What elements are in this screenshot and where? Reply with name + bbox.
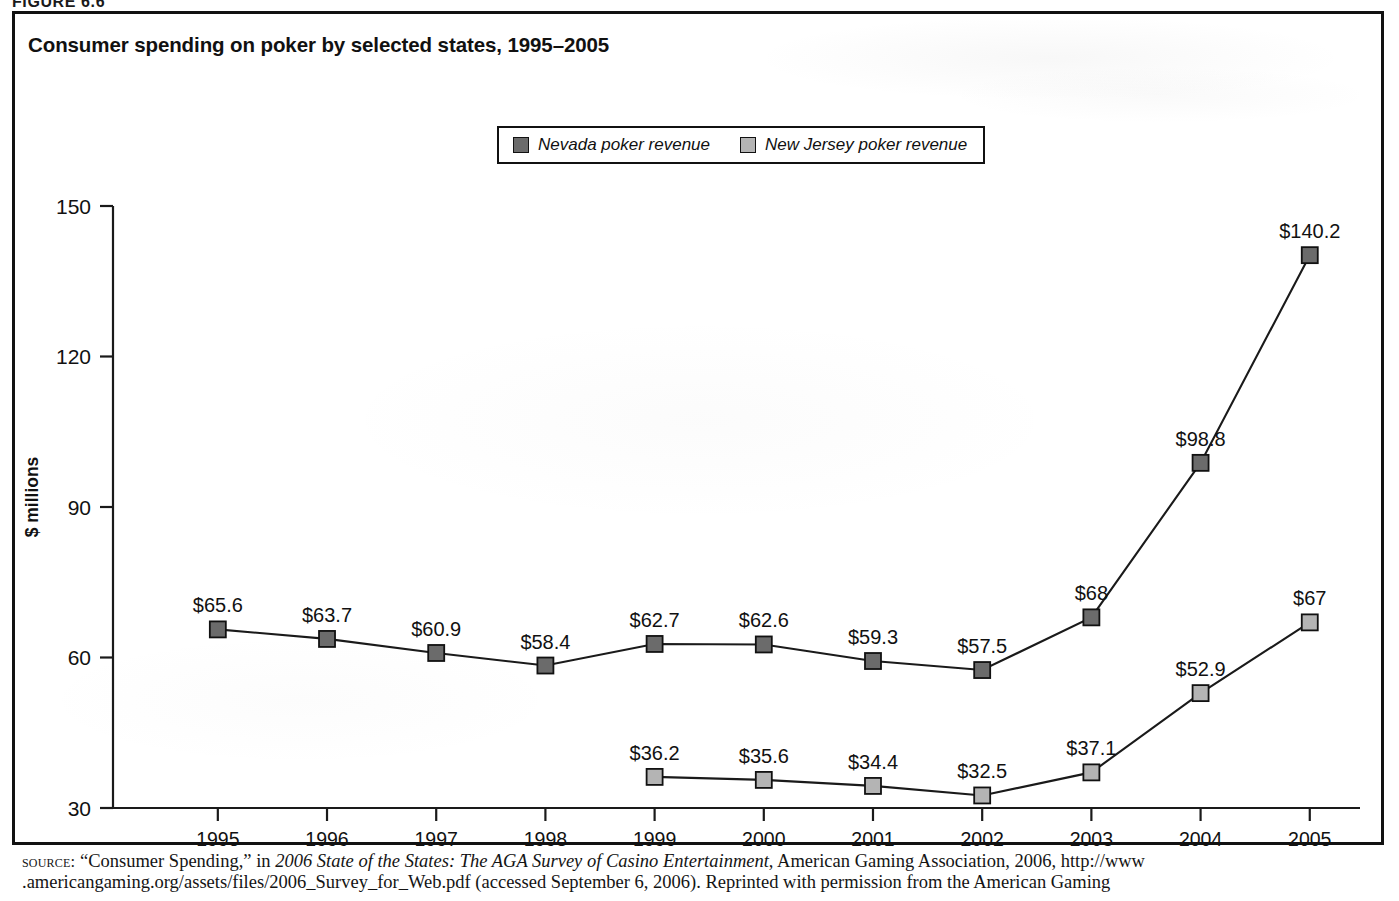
source-keyword: source: [22,852,75,871]
source-line2: .americangaming.org/assets/files/2006_Su… [22,872,1110,892]
chart-title: Consumer spending on poker by selected s… [28,33,609,57]
legend-item-new-jersey[interactable]: New Jersey poker revenue [740,135,967,155]
figure-caption: FIGURE 6.6 [12,0,105,11]
legend-item-nevada[interactable]: Nevada poker revenue [513,135,710,155]
legend-swatch-new-jersey [740,137,756,153]
chart-legend: Nevada poker revenue New Jersey poker re… [497,126,985,164]
source-line1-a: “Consumer Spending,” in [80,851,275,871]
legend-swatch-nevada [513,137,529,153]
source-note: source: “Consumer Spending,” in 2006 Sta… [22,851,1372,893]
source-title-italic: 2006 State of the States: The AGA Survey… [275,851,769,871]
legend-label-new-jersey: New Jersey poker revenue [765,135,967,155]
legend-label-nevada: Nevada poker revenue [538,135,710,155]
source-line1-b: , American Gaming Association, 2006, htt… [769,851,1145,871]
